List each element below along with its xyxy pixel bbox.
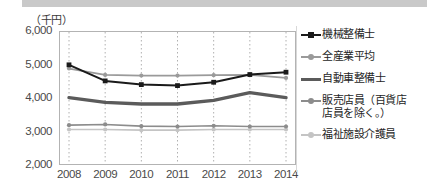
legend-item[interactable]: 機械整備士	[300, 28, 429, 41]
data-point-marker	[284, 124, 288, 128]
data-point-marker	[212, 127, 216, 131]
data-point-marker	[103, 127, 107, 131]
data-point-marker	[175, 128, 179, 132]
y-axis-tick-label: 6,000	[8, 24, 52, 36]
data-point-marker	[139, 82, 144, 87]
data-point-marker	[103, 79, 108, 84]
data-point-marker	[103, 122, 107, 126]
x-axis-tick-label: 2011	[158, 168, 198, 180]
chart-legend: 機械整備士全産業平均自動車整備士販売店員（百貨店 店員を除く。）福祉施設介護員	[300, 28, 429, 150]
y-axis-tick-label: 4,000	[8, 91, 52, 103]
legend-label: 機械整備士	[322, 28, 375, 41]
legend-label: 自動車整備士	[322, 72, 385, 85]
y-axis-tick-label: 2,000	[8, 158, 52, 170]
legend-swatch-icon	[300, 73, 322, 85]
legend-item[interactable]: 自動車整備士	[300, 72, 429, 85]
data-point-marker	[175, 73, 179, 77]
legend-item[interactable]: 全産業平均	[300, 50, 429, 63]
legend-swatch-icon	[300, 129, 322, 141]
data-point-marker	[67, 127, 71, 131]
data-point-marker	[139, 124, 143, 128]
data-point-marker	[284, 70, 289, 75]
data-point-marker	[67, 62, 72, 67]
data-point-marker	[212, 124, 216, 128]
legend-swatch-icon	[300, 29, 322, 41]
data-point-marker	[175, 124, 179, 128]
data-point-marker	[248, 124, 252, 128]
legend-label: 福祉施設介護員	[322, 128, 396, 141]
x-axis-tick-label: 2012	[194, 168, 234, 180]
data-point-marker	[139, 128, 143, 132]
data-point-marker	[67, 123, 71, 127]
y-axis-tick-label: 3,000	[8, 125, 52, 137]
data-point-marker	[247, 72, 252, 77]
data-point-marker	[211, 80, 216, 85]
legend-label: 販売店員（百貨店 店員を除く。）	[322, 94, 406, 119]
data-point-marker	[175, 83, 180, 88]
data-point-marker	[212, 73, 216, 77]
data-point-marker	[103, 73, 107, 77]
data-point-marker	[284, 76, 288, 80]
legend-label: 全産業平均	[322, 50, 375, 63]
legend-swatch-icon	[300, 51, 322, 63]
legend-swatch-icon	[300, 95, 322, 107]
legend-item[interactable]: 販売店員（百貨店 店員を除く。）	[300, 94, 429, 119]
x-axis-tick-label: 2008	[49, 168, 89, 180]
y-axis-tick-label: 5,000	[8, 58, 52, 70]
x-axis-tick-label: 2013	[230, 168, 270, 180]
x-axis-tick-label: 2014	[266, 168, 306, 180]
legend-divider	[296, 26, 297, 172]
series-line	[69, 93, 286, 104]
legend-item[interactable]: 福祉施設介護員	[300, 128, 429, 141]
x-axis-tick-label: 2010	[121, 168, 161, 180]
x-axis-tick-label: 2009	[85, 168, 125, 180]
data-point-marker	[139, 73, 143, 77]
